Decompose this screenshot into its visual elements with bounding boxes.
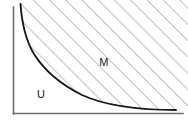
region-label-m: M xyxy=(99,56,108,68)
region-label-u: U xyxy=(37,88,45,100)
hatch-fill-rect xyxy=(0,0,188,127)
hatched-region-m xyxy=(0,0,188,127)
diagram-canvas: M U xyxy=(0,0,188,127)
region-diagram-figure: M U xyxy=(0,0,188,127)
